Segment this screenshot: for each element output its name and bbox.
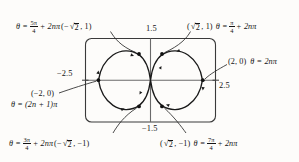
axis-label-ymin: −1.5 bbox=[142, 125, 158, 134]
theta-tail-bottom-left: + 2nπ bbox=[33, 140, 53, 149]
theta-lead-bottom-left: θ = bbox=[9, 140, 21, 149]
point-neg2-0 bbox=[97, 78, 101, 82]
point-close-top-left: , 1) bbox=[80, 23, 91, 32]
leader-bottom-right bbox=[164, 108, 186, 133]
fraction-denominator: 4 bbox=[209, 144, 214, 151]
annotation-left-point: (−2, 0) bbox=[31, 90, 54, 99]
radicand: 2 bbox=[195, 23, 200, 33]
point-right: (2, 0) bbox=[228, 58, 246, 67]
sqrt-radical-bottom-right: √ 2 bbox=[164, 139, 174, 149]
fraction-denominator: 4 bbox=[31, 27, 36, 34]
point-sqrt2-1 bbox=[137, 52, 141, 56]
theta-lead-bottom-right: θ = bbox=[193, 140, 205, 149]
radicand: 2 bbox=[74, 23, 79, 33]
leader-top-right bbox=[165, 32, 191, 53]
point-open-bottom-right: ( bbox=[160, 140, 163, 149]
theta-lead-top-left: θ = bbox=[16, 23, 28, 32]
point-open-top-left: (− bbox=[61, 23, 69, 32]
annotation-right: (2, 0) θ = 2nπ bbox=[228, 58, 277, 67]
radicand: 2 bbox=[67, 140, 72, 150]
theta-tail-bottom-right: + 2nπ bbox=[217, 140, 237, 149]
annotation-bottom-left: θ = 3π 4 + 2nπ (− √ 2 , −1) bbox=[9, 137, 89, 151]
annotation-bottom-right: ( √ 2 , −1) θ = 7π 4 + 2nπ bbox=[160, 137, 238, 151]
point-open-bottom-left: (− bbox=[54, 140, 62, 149]
leader-left bbox=[59, 81, 96, 93]
point-close-bottom-right: , −1) bbox=[174, 140, 190, 149]
point-sqrt2-neg1 bbox=[160, 105, 164, 109]
sqrt-radical-bottom-left: √ 2 bbox=[63, 139, 73, 149]
fraction-denominator: 4 bbox=[24, 144, 29, 151]
sqrt-radical-top-right: √ 2 bbox=[191, 22, 201, 32]
leader-bottom-left bbox=[113, 108, 137, 133]
leader-top-left bbox=[111, 32, 137, 53]
point-neg-sqrt2-neg1 bbox=[137, 105, 141, 109]
theta-right: θ = 2nπ bbox=[250, 58, 277, 67]
fraction-pi-over-4: π 4 bbox=[229, 20, 234, 34]
fraction-5pi-over-4: 5π 4 bbox=[30, 20, 39, 34]
axis-label-ymax: 1.5 bbox=[146, 25, 157, 34]
sqrt-radical-top-left: √ 2 bbox=[70, 22, 80, 32]
axis-label-xmin: −2.5 bbox=[57, 70, 73, 79]
theta-tail-top-left: + 2nπ bbox=[40, 23, 60, 32]
theta-lead-top-right: θ = bbox=[216, 23, 228, 32]
fraction-7pi-over-4: 7π 4 bbox=[207, 137, 216, 151]
annotation-left-theta: θ = (2n + 1)π bbox=[11, 101, 57, 110]
theta-tail-top-right: + 2nπ bbox=[236, 23, 256, 32]
radicand: 2 bbox=[168, 140, 173, 150]
fraction-3pi-over-4: 3π 4 bbox=[23, 137, 32, 151]
point-neg-sqrt2-1 bbox=[160, 52, 164, 56]
figure-container: θ = 5π 4 + 2nπ (− √ 2 , 1) ( √ 2 , 1) θ … bbox=[0, 0, 299, 162]
fraction-denominator: 4 bbox=[229, 27, 234, 34]
point-2-0 bbox=[201, 78, 205, 82]
annotation-top-left: θ = 5π 4 + 2nπ (− √ 2 , 1) bbox=[16, 20, 92, 34]
point-open-top-right: ( bbox=[187, 23, 190, 32]
point-close-bottom-left: , −1) bbox=[73, 140, 89, 149]
annotation-top-right: ( √ 2 , 1) θ = π 4 + 2nπ bbox=[187, 20, 256, 34]
axis-label-xmax: 2.5 bbox=[219, 82, 230, 91]
point-close-top-right: , 1) bbox=[201, 23, 212, 32]
